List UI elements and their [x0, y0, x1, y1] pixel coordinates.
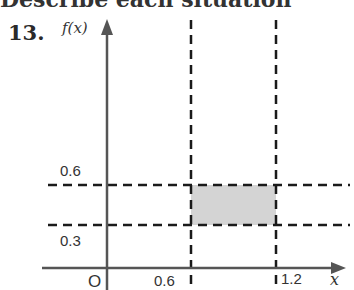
x-axis-label: x	[330, 270, 339, 289]
y-tick-0.6: 0.6	[60, 162, 81, 179]
y-axis-arrow-icon	[101, 19, 113, 35]
shaded-region	[191, 185, 276, 225]
y-tick-0.3: 0.3	[60, 232, 81, 249]
x-tick-0.6: 0.6	[154, 272, 175, 289]
x-tick-1.2: 1.2	[281, 270, 302, 287]
origin-label: O	[88, 272, 101, 290]
chart-graphic	[0, 0, 354, 290]
